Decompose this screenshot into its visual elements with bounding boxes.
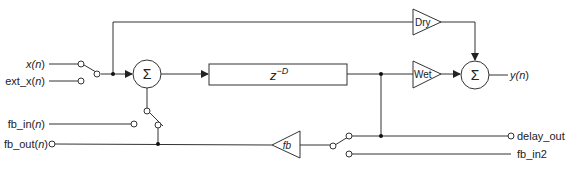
- delay-out-label: delay_out: [517, 130, 565, 142]
- y-output-label: y(n): [509, 69, 529, 81]
- sum2-symbol: Σ: [471, 67, 480, 83]
- fb-out-label: fb_out(n): [4, 138, 48, 150]
- dry-label: Dry: [415, 17, 431, 28]
- delay-block-diagram: x(n) ext_x(n) fb_in(n) fb_out(n) Σ Σ z−D…: [0, 0, 571, 170]
- ext-x-input-label: ext_x(n): [5, 75, 45, 87]
- fb-label: fb: [283, 140, 292, 151]
- ext-x-switch-terminal: [78, 78, 84, 84]
- fb-switch-arm: [335, 137, 348, 145]
- delay-out-port: [508, 133, 514, 139]
- input-switch-arm: [84, 65, 96, 72]
- fb-out-port: [49, 141, 55, 147]
- x-switch-terminal: [78, 61, 84, 67]
- fb-in2-label: fb_in2: [517, 148, 547, 160]
- sum1-symbol: Σ: [143, 66, 152, 82]
- fb-in-label: fb_in(n): [8, 118, 45, 130]
- fb-in-terminal: [131, 121, 137, 127]
- fb-out-wire: [55, 144, 272, 145]
- x-input-label: x(n): [25, 58, 45, 70]
- wet-label: Wet: [414, 69, 432, 80]
